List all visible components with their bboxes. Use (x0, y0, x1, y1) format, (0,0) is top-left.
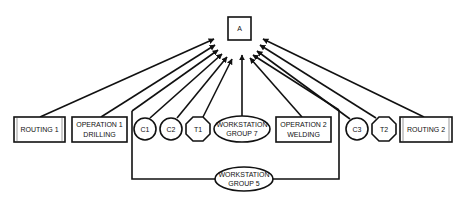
operation-1-label-line2: DRILLING (83, 131, 115, 138)
wsg7-label-line1: WORKSTATION (216, 121, 267, 128)
object-structure-diagram: A ROUTING 1 OPERATION 1 DRILLING C1 C2 T… (0, 0, 467, 199)
node-operation-2[interactable]: OPERATION 2 WELDING (276, 117, 331, 142)
node-c3[interactable]: C3 (346, 118, 368, 140)
t1-label: T1 (194, 126, 202, 133)
node-workstation-group-7[interactable]: WORKSTATION GROUP 7 (214, 116, 270, 142)
edge-t2-to-a (260, 45, 376, 118)
wsg7-label-line2: GROUP 7 (226, 130, 257, 137)
edge-routing2-to-a (263, 39, 424, 117)
edge-c3-to-a (257, 51, 350, 119)
routing-2-label: ROUTING 2 (407, 126, 445, 133)
t2-label: T2 (380, 126, 388, 133)
edges (40, 39, 424, 179)
wsg5-label-line1: WORKSTATION (218, 171, 269, 178)
node-c2[interactable]: C2 (160, 118, 182, 140)
node-c1[interactable]: C1 (134, 118, 156, 140)
node-a[interactable]: A (228, 17, 251, 40)
edge-op1-to-a (101, 45, 215, 117)
node-operation-1[interactable]: OPERATION 1 DRILLING (72, 117, 127, 142)
wsg5-label-line2: GROUP 5 (228, 180, 259, 187)
node-routing-1[interactable]: ROUTING 1 (14, 117, 65, 142)
operation-1-label-line1: OPERATION 1 (76, 121, 123, 128)
routing-1-label: ROUTING 1 (20, 126, 58, 133)
node-workstation-group-5[interactable]: WORKSTATION GROUP 5 (215, 167, 273, 191)
edge-wsg5-left-to-a (132, 50, 218, 111)
c1-label: C1 (141, 126, 150, 133)
c3-label: C3 (353, 126, 362, 133)
node-a-label: A (237, 25, 242, 32)
c2-label: C2 (167, 126, 176, 133)
operation-2-label-line2: WELDING (287, 131, 320, 138)
operation-2-label-line1: OPERATION 2 (280, 121, 327, 128)
node-t2[interactable]: T2 (372, 117, 396, 141)
node-routing-2[interactable]: ROUTING 2 (400, 117, 452, 142)
node-t1[interactable]: T1 (186, 117, 210, 141)
